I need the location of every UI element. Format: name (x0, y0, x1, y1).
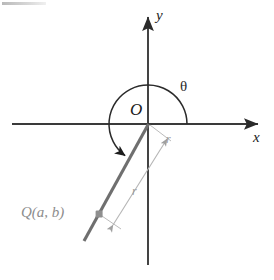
radius-label-upper: r (166, 133, 171, 145)
point-q-label: Q(a, b) (21, 205, 64, 220)
radius-label-lower: r (132, 185, 137, 197)
y-axis-label: y (156, 8, 163, 23)
figure-canvas: y x O θ r r Q(a, b) (0, 0, 274, 280)
angle-theta-label: θ (180, 79, 187, 94)
terminal-ray (84, 124, 149, 241)
point-q-marker (96, 211, 103, 218)
coordinate-diagram (0, 0, 274, 280)
origin-label: O (130, 101, 142, 118)
x-axis-label: x (253, 130, 260, 145)
